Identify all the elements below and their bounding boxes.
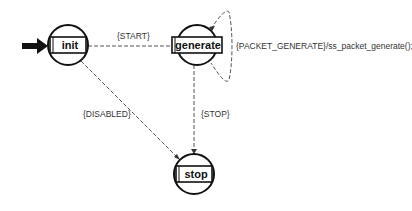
transition-disabled: {DISABLED} <box>81 61 180 160</box>
state-label-init: init <box>62 39 79 51</box>
transition-label-start: {START} <box>117 31 150 41</box>
state-diagram: {START} {DISABLED} {STOP} {PACKET_GENERA… <box>0 0 412 211</box>
initial-arrow <box>22 38 48 54</box>
transition-label-disabled: {DISABLED} <box>83 109 131 119</box>
transition-label-stop: {STOP} <box>201 109 230 119</box>
transition-stop: {STOP} <box>191 65 230 154</box>
state-generate[interactable]: generate <box>172 25 222 65</box>
state-init[interactable]: init <box>48 25 88 65</box>
state-label-stop: stop <box>184 168 208 180</box>
transition-start: {START} <box>88 31 177 49</box>
transition-label-packet-generate: {PACKET_GENERATE}/ss_packet_generate(); <box>236 41 412 51</box>
state-stop[interactable]: stop <box>174 154 214 194</box>
state-label-generate: generate <box>175 39 221 51</box>
transition-packet-generate: {PACKET_GENERATE}/ss_packet_generate(); <box>209 11 412 81</box>
